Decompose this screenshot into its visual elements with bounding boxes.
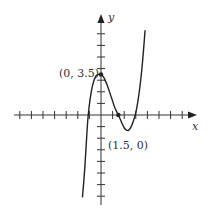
marked-points xyxy=(99,72,121,117)
point-label-root: (1.5, 0) xyxy=(108,139,148,152)
function-graph: x y (0, 3.5) (1.5, 0) xyxy=(0,0,211,214)
axes xyxy=(14,14,197,205)
point-marker xyxy=(99,72,103,76)
point-marker xyxy=(116,113,120,117)
cubic-curve xyxy=(82,30,145,197)
x-axis-label: x xyxy=(192,120,199,133)
y-axis-label: y xyxy=(107,11,115,24)
y-axis-arrow-icon xyxy=(98,14,105,23)
point-label-max: (0, 3.5) xyxy=(59,67,99,80)
x-axis-arrow-icon xyxy=(188,112,197,119)
